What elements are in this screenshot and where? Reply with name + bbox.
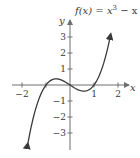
x-tick-label: 2 — [115, 89, 121, 99]
y-tick-label: 2 — [60, 48, 66, 58]
x-tick-label: −2 — [15, 89, 28, 99]
chart-title: f(x) = x3 − x — [74, 4, 138, 16]
cubic-curve — [28, 34, 111, 143]
x-axis-label: x — [130, 82, 136, 93]
y-tick-label: −3 — [53, 128, 67, 138]
y-tick-label: 3 — [60, 32, 66, 42]
y-axis-label: y — [58, 15, 65, 26]
y-tick-label: −1 — [53, 96, 66, 106]
x-tick-label: 1 — [91, 89, 97, 99]
title-rhs: − x — [117, 5, 138, 16]
y-tick-label: 1 — [60, 64, 66, 74]
y-tick-label: −2 — [53, 112, 66, 122]
function-plot: −212 −3−2−1123 x y f(x) = x3 − x — [0, 0, 140, 158]
title-lhs: f(x) = x — [74, 5, 113, 16]
